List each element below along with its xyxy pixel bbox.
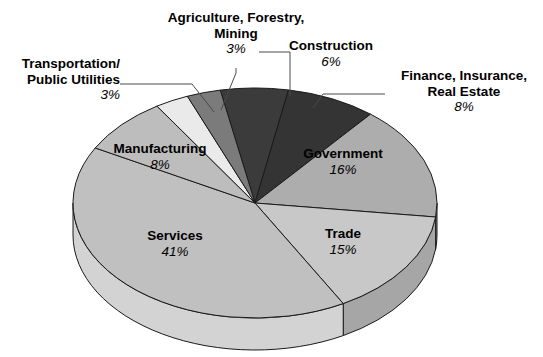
label-finance-line1: Finance, Insurance, <box>388 68 540 84</box>
label-manufacturing-percent: 8% <box>90 157 230 173</box>
label-construction: Construction 6% <box>266 38 396 69</box>
label-trade-line1: Trade <box>288 226 398 242</box>
label-government-line1: Government <box>268 146 418 162</box>
label-trade-percent: 15% <box>288 242 398 258</box>
label-transportation-percent: 3% <box>8 87 120 103</box>
label-manufacturing: Manufacturing 8% <box>90 141 230 172</box>
label-manufacturing-line1: Manufacturing <box>90 141 230 157</box>
label-trade: Trade 15% <box>288 226 398 257</box>
label-transportation-line2: Public Utilities <box>8 72 120 88</box>
label-finance-insurance-real-estate: Finance, Insurance, Real Estate 8% <box>388 68 540 115</box>
label-services: Services 41% <box>110 228 240 259</box>
pie-chart-figure: Transportation/ Public Utilities 3% Agri… <box>0 0 543 357</box>
label-services-percent: 41% <box>110 244 240 260</box>
label-construction-percent: 6% <box>266 54 396 70</box>
label-government: Government 16% <box>268 146 418 177</box>
label-construction-line1: Construction <box>266 38 396 54</box>
label-finance-line2: Real Estate <box>388 84 540 100</box>
pie-top-face <box>73 88 437 318</box>
label-transportation-line1: Transportation/ <box>8 56 120 72</box>
label-government-percent: 16% <box>268 162 418 178</box>
label-services-line1: Services <box>110 228 240 244</box>
label-agriculture-line1: Agriculture, Forestry, <box>126 10 346 26</box>
label-transportation-public-utilities: Transportation/ Public Utilities 3% <box>8 56 120 103</box>
label-finance-percent: 8% <box>388 99 540 115</box>
